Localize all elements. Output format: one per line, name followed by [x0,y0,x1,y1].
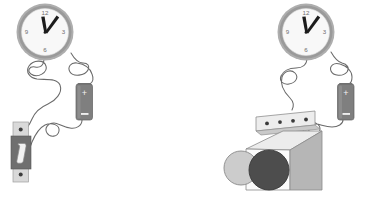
clock-numeral-6: 6 [304,46,308,53]
clock-numeral-12: 12 [42,9,49,16]
switch-screw-top [19,128,23,132]
battery-minus-label [343,113,351,115]
clock-numeral-9: 9 [286,28,290,35]
terminal-dot-1[interactable] [265,122,269,126]
right-clock: 12 3 6 9 [278,4,335,61]
left-battery: + [76,83,93,120]
terminal-dot-2[interactable] [278,120,282,124]
clock-numeral-12: 12 [303,9,310,16]
circuit-diagram-figure: 12 3 6 9 + [0,0,371,200]
right-battery: + [338,83,355,120]
battery-highlight [78,86,81,119]
clock-numeral-3: 3 [323,28,327,35]
left-knife-switch[interactable] [11,122,31,182]
buzzer-large-disc[interactable] [249,150,289,190]
battery-plus-label: + [82,88,87,98]
battery-plus-label: + [343,88,348,98]
battery-minus-label [81,113,89,115]
terminal-dot-3[interactable] [291,119,295,123]
scene-canvas: 12 3 6 9 + [0,0,371,200]
clock-center-pin [44,31,47,34]
switch-screw-bottom [19,173,23,177]
battery-highlight [339,86,342,119]
terminal-dot-4[interactable] [304,118,308,122]
left-clock: 12 3 6 9 [17,4,74,61]
clock-center-pin [305,31,308,34]
clock-numeral-3: 3 [62,28,66,35]
clock-numeral-6: 6 [43,46,47,53]
clock-numeral-9: 9 [25,28,29,35]
